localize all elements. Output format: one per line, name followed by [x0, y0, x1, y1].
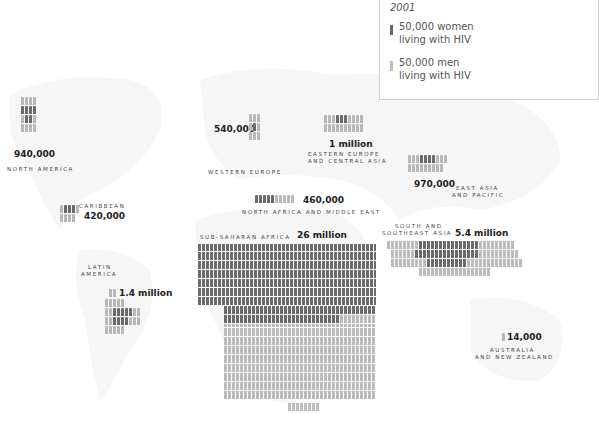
person-icons-north-africa: [254, 195, 294, 203]
person-icons-sub-saharan-women: [198, 244, 376, 306]
person-icons-western-europe: [248, 114, 260, 140]
person-icons-eastern-europe: [323, 115, 363, 132]
person-icons-north-america: [20, 97, 36, 132]
person-icons-east-asia: [407, 155, 447, 172]
legend-year: 2001: [390, 2, 415, 13]
dark-person-icon: [390, 25, 393, 35]
person-icons-caribbean: [59, 205, 79, 222]
person-icons-sub-saharan-men: [224, 324, 376, 400]
light-person-icon: [502, 333, 505, 341]
light-person-icon: [390, 61, 393, 71]
person-icons-latin-america: [104, 299, 140, 334]
legend-box: 2001 50,000 women living with HIV 50,000…: [379, 0, 599, 100]
